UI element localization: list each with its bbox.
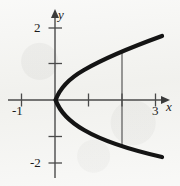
x-axis-label: x: [166, 100, 172, 113]
parabola-curve: [56, 36, 162, 157]
plot-canvas: [0, 0, 180, 186]
y-tick-label-minus-2: -2: [30, 156, 41, 169]
x-tick-label-3: 3: [152, 104, 159, 117]
parabola-figure: y x 2 -2 -1 3: [0, 0, 180, 186]
x-tick-label-minus-1: -1: [12, 104, 23, 117]
y-tick-label-2: 2: [34, 21, 41, 34]
y-axis-label: y: [58, 8, 64, 21]
